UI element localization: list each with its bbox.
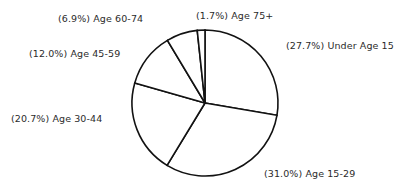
pie-slice-group [132, 30, 278, 176]
pie-chart-graphic [0, 0, 404, 189]
pie-label-under-age-15: (27.7%) Under Age 15 [286, 40, 394, 51]
pie-label-age-45-59: (12.0%) Age 45-59 [29, 48, 120, 59]
pie-slice [205, 30, 278, 115]
pie-label-age-60-74: (6.9%) Age 60-74 [58, 13, 143, 24]
pie-label-age-15-29: (31.0%) Age 15-29 [264, 168, 355, 179]
pie-label-age-30-44: (20.7%) Age 30-44 [11, 113, 102, 124]
pie-label-age-75-plus: (1.7%) Age 75+ [196, 10, 273, 21]
pie-chart-figure: (27.7%) Under Age 15 (31.0%) Age 15-29 (… [0, 0, 404, 189]
